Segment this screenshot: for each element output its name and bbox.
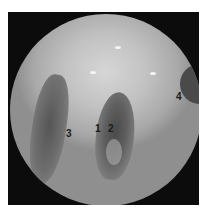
label-2: 2 bbox=[108, 124, 114, 134]
specular-highlight bbox=[115, 46, 121, 49]
label-1: 1 bbox=[95, 124, 101, 134]
frame-notch bbox=[183, 172, 199, 205]
right-dark-region bbox=[180, 64, 199, 104]
endoscope-image-frame bbox=[8, 12, 199, 205]
label-4: 4 bbox=[176, 92, 182, 102]
label-3: 3 bbox=[66, 129, 72, 139]
specular-highlight bbox=[90, 71, 96, 74]
glottis-highlight bbox=[106, 139, 122, 165]
endoscope-view bbox=[10, 14, 199, 205]
glottis-opening bbox=[92, 90, 139, 181]
specular-highlight bbox=[150, 72, 156, 75]
